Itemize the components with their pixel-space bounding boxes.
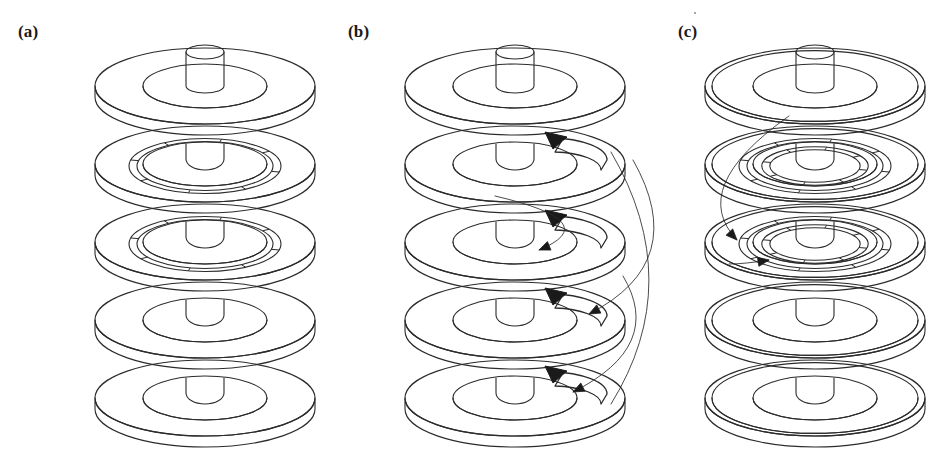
hub-cylinder-top <box>186 45 224 59</box>
panel-a <box>95 45 315 447</box>
disk-inner-step-front <box>753 86 877 108</box>
segmented-ring-tick <box>774 143 778 146</box>
disk-side-wall <box>405 242 625 291</box>
disk-rim-band-front <box>712 86 918 121</box>
hub-shaft-segment <box>496 378 534 404</box>
disk-side-wall <box>95 242 315 291</box>
arrow-layer-c <box>721 116 789 266</box>
segmented-ring-tick <box>751 179 758 181</box>
hub-cylinder-top <box>496 45 534 59</box>
segmented-ring-tick <box>851 187 855 190</box>
disk-inner-step-front <box>143 164 267 186</box>
segmented-ring-inner-edge <box>747 142 883 191</box>
disk-inner-step-front <box>453 242 577 264</box>
segmented-ring-outer-edge <box>762 225 868 264</box>
segmented-ring-tick <box>741 160 749 161</box>
disk-inner-step-front <box>143 398 267 420</box>
panel-label-c: (c) <box>678 22 697 42</box>
hub-shaft-segment <box>186 222 224 248</box>
disk-side-wall <box>95 164 315 213</box>
disk-outer-side <box>705 398 925 447</box>
segmented-ring-outer-edge <box>762 147 868 186</box>
segmented-ring-tick <box>859 248 867 249</box>
panel-label-a: (a) <box>18 22 38 42</box>
hub-shaft-segment <box>796 144 834 170</box>
segmented-ring-outer-edge <box>129 139 281 194</box>
disk-inner-step-front <box>143 320 267 342</box>
segmented-ring-inner-edge <box>770 150 860 183</box>
panel-c <box>705 45 925 447</box>
block-arrow-level-5-head <box>545 366 567 383</box>
disk-side-wall <box>405 320 625 369</box>
panel-label-b: (b) <box>348 22 369 42</box>
disk-outer-side <box>705 320 925 369</box>
segmented-ring-tick <box>786 228 790 231</box>
diagram-canvas <box>0 0 944 449</box>
hub-shaft-segment <box>496 144 534 170</box>
segmented-ring-tick <box>763 240 771 241</box>
segmented-ring-tick <box>770 253 777 255</box>
transfer-curve-2-to-3-head <box>539 242 551 251</box>
segmented-ring-tick <box>141 179 148 181</box>
disk-inner-step-front <box>143 242 267 264</box>
segmented-ring-tick <box>770 175 777 177</box>
disk-inner-step-front <box>143 86 267 108</box>
block-arrow-level-4-head <box>545 288 567 305</box>
segmented-ring-tick <box>872 229 879 231</box>
segmented-ring-tick <box>751 257 758 259</box>
segmented-ring-tick <box>164 221 168 224</box>
segmented-ring-tick <box>131 160 139 161</box>
segmented-ring-tick <box>271 171 279 172</box>
disk-outer-side <box>705 164 925 213</box>
hub-shaft-segment <box>496 300 534 326</box>
segmented-ring-tick <box>839 180 843 183</box>
segmented-ring-tick <box>786 150 790 153</box>
disk-inner-step-front <box>753 320 877 342</box>
segmented-ring-tick <box>131 238 139 239</box>
disk-inner-step-front <box>453 398 577 420</box>
segmented-ring-tick <box>262 151 269 153</box>
segmented-ring-outer-edge <box>129 217 281 272</box>
panel-b <box>405 45 654 447</box>
hub-shaft-segment <box>496 222 534 248</box>
segmented-ring-tick <box>164 143 168 146</box>
disk-outer-side <box>705 242 925 291</box>
segmented-ring-inner-edge <box>137 220 273 269</box>
figure-root: (a) (b) (c) <box>0 0 944 449</box>
segmented-ring-tick <box>774 221 778 224</box>
page-speck <box>694 12 696 14</box>
hub-shaft-segment <box>186 144 224 170</box>
hub-shaft-segment <box>186 300 224 326</box>
disk-rim-band-front <box>712 320 918 355</box>
block-arrow-level-2-head <box>545 132 567 149</box>
segmented-ring-tick <box>141 257 148 259</box>
hub-shaft-segment <box>186 378 224 404</box>
disk-inner-step-front <box>453 320 577 342</box>
hub-shaft-segment <box>796 300 834 326</box>
incoming-curve-to-level-3-head <box>726 229 737 240</box>
hub-shaft-segment <box>796 222 834 248</box>
hub-cylinder-body <box>796 52 834 93</box>
disk-side-wall <box>95 398 315 447</box>
disk-side-wall <box>95 320 315 369</box>
segmented-ring-tick <box>763 162 771 163</box>
segmented-ring-tick <box>271 249 279 250</box>
hub-cylinder-body <box>496 52 534 93</box>
segmented-ring-tick <box>859 170 867 171</box>
hub-shaft-segment <box>796 378 834 404</box>
segmented-ring-tick <box>839 258 843 261</box>
segmented-ring-tick <box>881 249 889 250</box>
segmented-ring-tick <box>262 229 269 231</box>
disk-inner-step-front <box>753 398 877 420</box>
segmented-ring-inner-edge <box>137 142 273 191</box>
segmented-ring-tick <box>851 265 855 268</box>
segmented-ring-tick <box>881 171 889 172</box>
disk-inner-step-front <box>453 164 577 186</box>
segmented-ring-tick <box>853 156 860 158</box>
segmented-ring-tick <box>241 187 245 190</box>
segmented-ring-inner-edge <box>770 228 860 261</box>
segmented-ring-tick <box>853 234 860 236</box>
transfer-curve-3-to-4-head <box>589 305 601 314</box>
segmented-ring-tick <box>241 265 245 268</box>
segmented-ring-tick <box>741 238 749 239</box>
